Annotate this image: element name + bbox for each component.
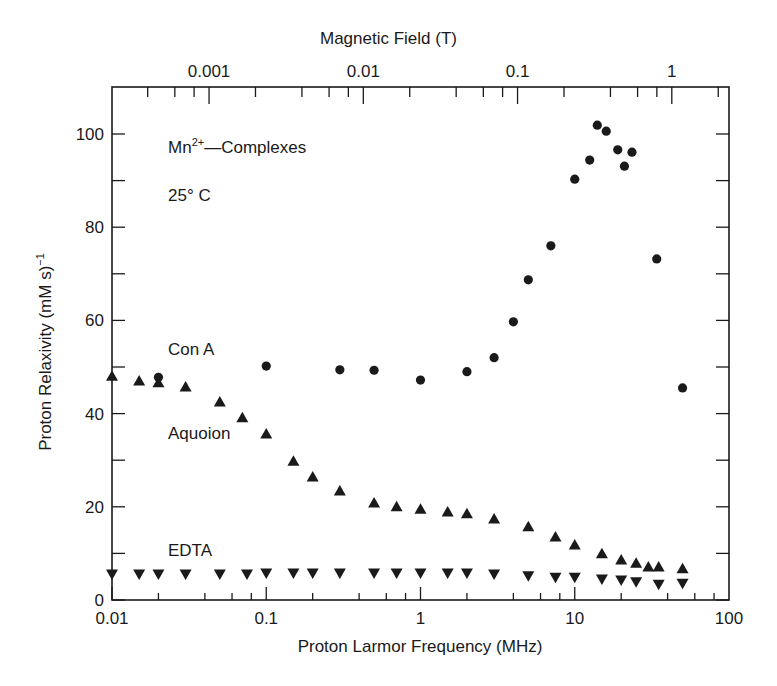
edta-point [334,568,346,579]
con-a-point [593,121,602,130]
aquoion-point [677,563,689,574]
edta-point [653,580,665,591]
aquoion-point [260,428,272,439]
temperature-annotation: 25° C [168,186,211,206]
y-tick-label: 100 [76,125,104,144]
edta-point [260,568,272,579]
edta-series-label: EDTA [168,541,212,561]
x-tick-label: 0.01 [95,609,128,628]
edta-point [488,569,500,580]
aquoion-point [415,503,427,514]
aquoion-point [236,412,248,423]
aquoion-point [180,381,192,392]
aquoion-point [133,375,145,386]
edta-point [307,568,319,579]
aquoion-point [368,497,380,508]
x2-tick-label: 0.001 [188,62,231,81]
x-tick-label: 100 [715,609,743,628]
aquoion-point [596,548,608,559]
x2-tick-label: 1 [667,62,676,81]
edta-point [106,569,118,580]
edta-point [522,571,534,582]
edta-point [569,573,581,584]
edta-point [133,569,145,580]
edta-point [368,568,380,579]
edta-point [214,569,226,580]
con-a-point [335,365,344,374]
y-tick-label: 60 [85,311,104,330]
con-a-point [509,317,518,326]
y-tick-label: 40 [85,405,104,424]
con-a-point [627,148,636,157]
x-tick-label: 0.1 [254,609,278,628]
con-a-point [489,353,498,362]
aquoion-point [522,521,534,532]
aquoion-point [214,396,226,407]
x-tick-label: 10 [565,609,584,628]
aquoion-point [461,508,473,518]
cona-series-label: Con A [168,340,214,360]
con-a-point [678,383,687,392]
edta-point [241,569,253,580]
x-tick-label: 1 [416,609,425,628]
con-a-point [570,175,579,184]
aquoion-point [391,501,403,512]
y-tick-label: 0 [95,591,104,610]
aquoion-point [334,485,346,496]
aquoion-point [307,471,319,482]
edta-point [415,568,427,579]
aquoion-point [615,554,627,565]
aquoion-point [488,513,500,524]
complexes-annotation: Mn2+—Complexes [168,136,306,158]
edta-point [615,575,627,586]
con-a-point [613,145,622,154]
aquoion-point [106,370,118,381]
edta-point [180,569,192,580]
y-axis-title: Proton Relaxivity (mM s)−1 [34,253,56,451]
aquoion-series-label: Aquoion [168,424,230,444]
x2-tick-label: 0.01 [347,62,380,81]
edta-point [549,573,561,584]
edta-point [677,579,689,590]
con-a-point [546,241,555,250]
edta-point [442,568,454,579]
aquoion-point [287,455,299,466]
aquoion-point [642,561,654,572]
aquoion-point [442,506,454,517]
con-a-point [652,254,661,263]
con-a-point [620,162,629,171]
aquoion-point [630,557,642,568]
con-a-point [585,155,594,164]
edta-point [391,568,403,579]
y-tick-label: 20 [85,498,104,517]
y-tick-label: 80 [85,218,104,237]
edta-point [152,569,164,580]
aquoion-point [653,561,665,572]
edta-point [630,577,642,588]
edta-point [287,568,299,579]
bottom-axis-title: Proton Larmor Frequency (MHz) [0,637,777,657]
con-a-point [602,127,611,136]
edta-point [461,568,473,579]
top-axis-title: Magnetic Field (T) [0,29,777,49]
edta-point [596,575,608,586]
x2-tick-label: 0.1 [506,62,530,81]
con-a-point [262,361,271,370]
aquoion-point [549,531,561,542]
con-a-point [416,375,425,384]
aquoion-point [569,539,581,550]
con-a-point [462,367,471,376]
relaxivity-chart: 0.010.11101000204060801000.0010.010.11 [0,0,777,686]
con-a-point [369,366,378,375]
con-a-point [524,275,533,284]
